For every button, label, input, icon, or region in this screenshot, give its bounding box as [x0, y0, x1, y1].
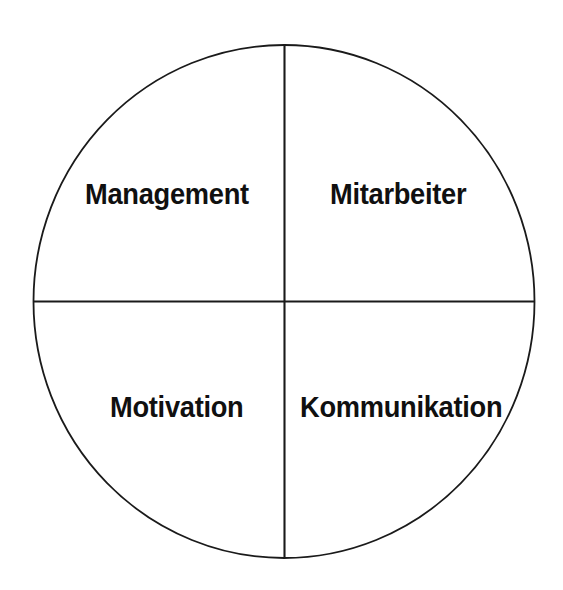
quadrant-label-top-right: Mitarbeiter [330, 180, 466, 209]
quadrant-label-top-left: Management [85, 180, 249, 209]
quadrant-circle-diagram: Management Mitarbeiter Motivation Kommun… [0, 0, 563, 590]
quadrant-label-bottom-right: Kommunikation [300, 393, 502, 422]
quadrant-label-bottom-left: Motivation [110, 393, 243, 422]
quadrant-circle-graphic [0, 0, 563, 590]
